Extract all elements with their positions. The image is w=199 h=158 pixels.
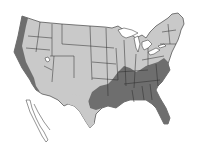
baja-california: [26, 100, 50, 142]
us-map: [0, 0, 199, 158]
